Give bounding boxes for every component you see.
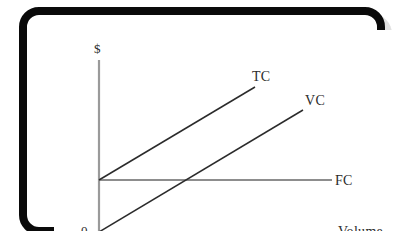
cost-volume-chart-figure: $ 0 TC VC FC Volume (0, 0, 403, 231)
plot-area: $ 0 TC VC FC Volume (54, 30, 403, 231)
total-cost-line (99, 87, 255, 180)
fixed-cost-label: FC (335, 174, 353, 188)
figure-frame-border: $ 0 TC VC FC Volume (19, 7, 385, 231)
chart-svg (54, 30, 403, 231)
variable-cost-label: VC (305, 94, 325, 108)
x-axis-label: Volume (338, 225, 383, 231)
total-cost-label: TC (252, 70, 271, 84)
variable-cost-line (99, 110, 303, 231)
y-axis-label: $ (94, 42, 101, 55)
origin-label: 0 (81, 224, 88, 231)
